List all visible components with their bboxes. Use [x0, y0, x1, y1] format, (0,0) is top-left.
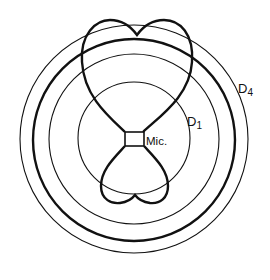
- diagram-canvas: Mic. D1 D4: [0, 0, 270, 280]
- polar-pattern-diagram: Mic. D1 D4: [0, 0, 270, 280]
- mic-label: Mic.: [146, 135, 167, 147]
- lower-pickup-lobe: [101, 146, 168, 203]
- circle-3-bold: [33, 39, 235, 241]
- d4-label: D4: [238, 81, 253, 98]
- d1-label: D1: [187, 114, 202, 131]
- circle-d4: [20, 25, 248, 253]
- upper-pickup-lobe: [82, 20, 192, 132]
- microphone-box: [125, 132, 144, 146]
- circle-2: [49, 54, 219, 224]
